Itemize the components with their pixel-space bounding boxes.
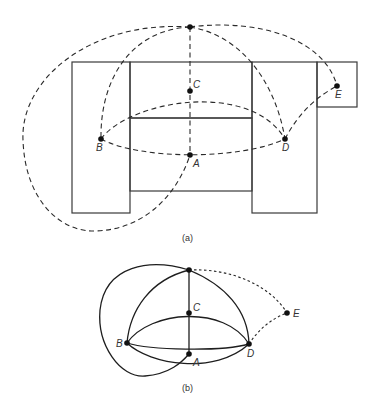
edge-top-D (190, 27, 285, 139)
node-b-E (284, 310, 290, 316)
node-b-A (186, 351, 192, 357)
node-b-C (186, 310, 192, 316)
node-a-A (187, 152, 193, 158)
label-b-C: C (193, 302, 201, 313)
edge-b-top-B (127, 270, 189, 343)
node-a-top (187, 24, 193, 30)
graph-a-edges (23, 25, 337, 231)
edge-b-top-A-outer-loop (100, 265, 189, 376)
label-a-D: D (282, 142, 289, 153)
edge-b-D-E (249, 313, 287, 344)
node-b-D (246, 341, 252, 347)
edge-top-A-outer-loop (23, 26, 190, 231)
caption-a: (a) (182, 233, 193, 243)
caption-b: (b) (182, 383, 193, 393)
graph-b-labels: C B A D E (b) (116, 302, 300, 393)
label-a-B: B (96, 142, 103, 153)
label-a-E: E (335, 89, 342, 100)
label-b-A: A (192, 357, 200, 368)
node-a-D (282, 136, 288, 142)
label-a-C: C (193, 79, 201, 90)
node-a-B (98, 136, 104, 142)
node-a-E (334, 83, 340, 89)
label-b-D: D (247, 348, 254, 359)
node-a-C (187, 88, 193, 94)
label-b-E: E (293, 308, 300, 319)
edge-b-top-E (189, 270, 287, 313)
edge-top-E (190, 25, 337, 86)
edge-b-B-A-D (127, 343, 249, 349)
graph-b-nodes (124, 267, 290, 357)
node-b-top (186, 267, 192, 273)
floor-plan (72, 62, 357, 213)
graph-a-nodes (98, 24, 340, 158)
planar-graph-figure: C B A D E (a) C B A D E (b) (0, 0, 376, 409)
label-a-A: A (192, 158, 200, 169)
edge-b-B-C-D (127, 316, 249, 344)
edge-B-C-D (101, 102, 285, 139)
label-b-B: B (116, 338, 123, 349)
edge-B-A-D (101, 139, 285, 155)
node-b-B (124, 340, 130, 346)
edge-D-E (285, 86, 337, 139)
edge-top-B (101, 27, 190, 139)
graph-a-labels: C B A D E (a) (96, 79, 342, 243)
